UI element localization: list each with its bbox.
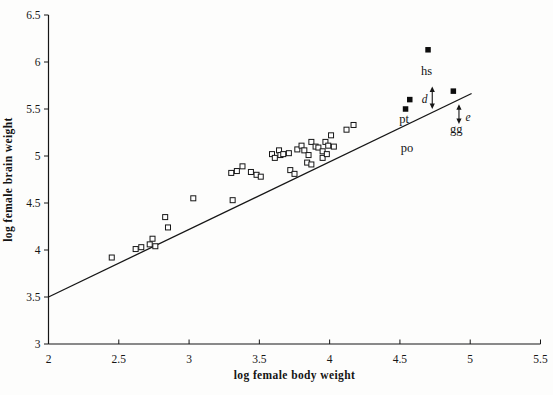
data-point-open-square: [292, 171, 297, 176]
data-point-filled-square: [407, 97, 413, 103]
y-tick-label: 3: [35, 338, 41, 350]
species-label-po: po: [401, 141, 414, 155]
data-point-open-square: [344, 127, 349, 132]
data-point-open-square: [139, 245, 144, 250]
x-tick-label: 4.5: [393, 353, 408, 365]
data-point-open-square: [230, 198, 235, 203]
y-tick-label: 3.5: [26, 291, 41, 303]
data-point-open-square: [331, 144, 336, 149]
x-tick-label: 5: [467, 353, 473, 365]
x-axis-title: log female body weight: [48, 369, 541, 381]
x-tick-label: 5.5: [533, 353, 548, 365]
data-point-open-square: [165, 225, 170, 230]
data-point-open-square: [229, 170, 234, 175]
x-tick-label: 4: [327, 353, 333, 365]
data-point-filled-square: [425, 47, 431, 53]
y-tick-label: 6.5: [26, 9, 41, 21]
residual-arrow-d-head-bottom: [430, 104, 435, 110]
data-point-open-square: [163, 215, 168, 220]
brain-body-scatter-figure: 22.533.544.555.533.544.555.566.5hsptpogg…: [0, 0, 553, 395]
y-tick-label: 5: [35, 150, 41, 162]
x-tick-label: 3.5: [252, 353, 267, 365]
data-point-open-square: [324, 152, 329, 157]
x-tick-label: 2: [46, 353, 52, 365]
data-point-open-square: [153, 244, 158, 249]
data-point-open-square: [234, 169, 239, 174]
y-axis-title: log female brain weight: [2, 15, 14, 344]
data-point-open-square: [147, 242, 152, 247]
y-tick-label: 5.5: [26, 103, 41, 115]
data-point-open-square: [150, 236, 155, 241]
y-tick-label: 4.5: [26, 197, 41, 209]
data-point-open-square: [109, 255, 114, 260]
data-point-open-square: [351, 122, 356, 127]
species-label-pt: pt: [399, 112, 409, 126]
y-tick-label: 6: [35, 56, 41, 68]
species-label-gg: gg: [450, 122, 463, 136]
data-point-open-square: [258, 174, 263, 179]
data-point-open-square: [191, 196, 196, 201]
scatter-plot-canvas: 22.533.544.555.533.544.555.566.5hsptpogg…: [0, 0, 553, 395]
data-point-open-square: [306, 153, 311, 158]
residual-arrow-d-head-top: [430, 86, 435, 92]
data-point-open-square: [133, 247, 138, 252]
data-point-open-square: [329, 133, 334, 138]
data-point-open-square: [240, 164, 245, 169]
data-point-open-square: [309, 162, 314, 167]
data-point-open-square: [286, 151, 291, 156]
data-point-open-square: [326, 143, 331, 148]
data-point-open-square: [272, 155, 277, 160]
data-point-filled-square: [403, 106, 409, 112]
data-point-open-square: [281, 152, 286, 157]
x-tick-label: 2.5: [112, 353, 127, 365]
data-point-open-square: [248, 169, 253, 174]
x-tick-label: 3: [186, 353, 192, 365]
species-label-hs: hs: [421, 64, 432, 78]
residual-label-e: e: [466, 111, 471, 123]
y-tick-label: 4: [35, 244, 41, 256]
residual-label-d: d: [422, 93, 428, 105]
residual-arrow-e-head-top: [456, 104, 461, 110]
data-point-filled-square: [451, 88, 457, 94]
